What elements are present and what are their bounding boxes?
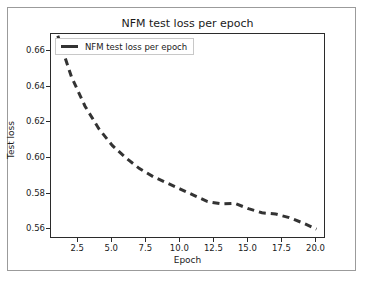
x-tick-label: 17.5 (272, 243, 291, 253)
chart-legend: NFM test loss per epoch (55, 38, 194, 55)
y-tick-label: 0.62 (26, 116, 45, 126)
y-tick-label: 0.64 (26, 81, 45, 91)
legend-label: NFM test loss per epoch (85, 42, 187, 52)
x-tick-label: 12.5 (204, 243, 223, 253)
x-tick-label: 7.5 (139, 243, 153, 253)
legend-line-swatch (61, 45, 78, 49)
chart-title: NFM test loss per epoch (50, 17, 325, 30)
y-axis-label: Test loss (6, 121, 16, 159)
x-tick-label: 15.0 (238, 243, 257, 253)
x-axis-label: Epoch (50, 255, 325, 265)
y-tick-label: 0.60 (26, 152, 45, 162)
y-tick-label: 0.56 (26, 223, 45, 233)
y-tick-label: 0.58 (26, 188, 45, 198)
series-line-nfm-test-loss (58, 36, 317, 229)
x-tick-label: 20.0 (306, 243, 325, 253)
x-tick-label: 2.5 (70, 243, 84, 253)
figure-root: NFM test loss per epoch Test loss Epoch … (0, 0, 365, 286)
line-chart-svg (51, 34, 326, 239)
plot-area (50, 33, 325, 238)
y-tick-label: 0.66 (26, 45, 45, 55)
x-tick-label: 5.0 (104, 243, 118, 253)
x-tick-label: 10.0 (170, 243, 189, 253)
